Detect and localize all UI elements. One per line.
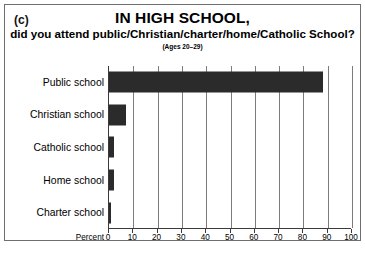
x-ticklabel: 40 (201, 233, 210, 242)
bar (109, 202, 111, 223)
category-label: Charter school (8, 196, 104, 229)
x-ticklabel: 70 (274, 233, 283, 242)
x-ticklabel: 90 (322, 233, 331, 242)
category-label: Catholic school (8, 131, 104, 164)
bar-row (109, 164, 351, 197)
category-label: Home school (8, 164, 104, 197)
x-ticklabel: 30 (176, 233, 185, 242)
bar (109, 170, 114, 191)
x-ticklabel: 80 (298, 233, 307, 242)
bar-row (109, 131, 351, 164)
plot-area (108, 66, 351, 229)
chart-title: IN HIGH SCHOOL, (8, 10, 357, 26)
chart-note: (Ages 20–29) (8, 42, 357, 51)
x-ticklabel: 60 (249, 233, 258, 242)
category-axis-labels: Public schoolChristian schoolCatholic sc… (8, 66, 104, 229)
category-label: Christian school (8, 99, 104, 132)
x-ticklabel: 20 (152, 233, 161, 242)
bars-layer (109, 66, 351, 228)
x-ticklabel: 50 (225, 233, 234, 242)
x-axis-ticklabels: 0102030405060708090100 (108, 233, 351, 245)
bar-row (109, 196, 351, 229)
category-label: Public school (8, 66, 104, 99)
x-ticklabel: 0 (106, 233, 111, 242)
x-ticklabel: 100 (344, 233, 358, 242)
bar (109, 104, 126, 125)
chart-figure: (c) IN HIGH SCHOOL, did you attend publi… (0, 0, 365, 253)
x-axis-title: Percent (60, 233, 104, 242)
bar-row (109, 99, 351, 132)
title-block: IN HIGH SCHOOL, did you attend public/Ch… (8, 10, 357, 51)
x-ticklabel: 10 (128, 233, 137, 242)
bar (109, 137, 114, 158)
chart-subtitle: did you attend public/Christian/charter/… (8, 27, 357, 41)
bar-row (109, 66, 351, 99)
bar (109, 72, 323, 93)
